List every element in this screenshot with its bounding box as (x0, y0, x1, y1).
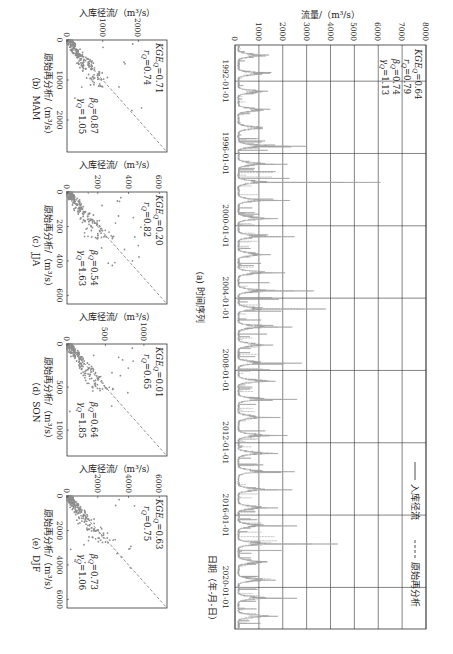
scatter-panel-d: 0500100005001000KGEQ=0.01rQ=0.65βQ=0.64γ… (31, 311, 167, 456)
scatter-point (132, 43, 134, 45)
y-tick-label: 0 (62, 184, 71, 189)
scatter-panels: 010002000010002000KGEQ=0.71rQ=0.74βQ=0.8… (31, 7, 167, 609)
scatter-point (103, 78, 105, 80)
scatter-point (72, 507, 74, 509)
scatter-point (101, 528, 103, 530)
scatter-caption: （d）SON (31, 377, 41, 422)
scatter-point (74, 207, 76, 209)
scatter-point (77, 350, 79, 352)
scatter-point (99, 225, 101, 227)
scatter-point (79, 367, 81, 369)
x-tick-label: 1000 (55, 70, 64, 89)
scatter-point (78, 512, 80, 514)
x-tick-label: 2000 (55, 110, 64, 129)
y-tick-label: 200 (93, 175, 102, 190)
scatter-point (77, 352, 79, 354)
legend-label-inflow: 入库径流 (410, 484, 421, 520)
scatter-point (97, 384, 99, 386)
scatter-point (87, 216, 89, 218)
scatter-point (72, 505, 74, 507)
scatter-point (120, 375, 122, 377)
scatter-point (74, 349, 76, 351)
scatter-point (88, 364, 90, 366)
scatter-point (96, 375, 98, 377)
scatter-point (94, 385, 96, 387)
scatter-point (99, 85, 101, 87)
stat-kge: KGEQ=0.71 (153, 42, 164, 93)
scatter-point (134, 236, 136, 238)
scatter-point (112, 539, 114, 541)
scatter-point (91, 530, 93, 532)
scatter-point (70, 192, 72, 194)
scatter-point (82, 211, 84, 213)
scatter-point (118, 356, 120, 358)
scatter-point (86, 77, 88, 79)
scatter-x-label: 原始再分析/（m³/s） (43, 53, 54, 139)
scatter-point (92, 390, 94, 392)
scatter-point (87, 362, 89, 364)
scatter-point (76, 57, 78, 59)
scatter-point (83, 64, 85, 66)
scatter-point (90, 64, 92, 66)
scatter-point (85, 228, 87, 230)
scatter-point (88, 213, 90, 215)
scatter-x-label: 原始再分析/（m³/s） (43, 205, 54, 291)
scatter-point (71, 502, 73, 504)
scatter-point (87, 373, 89, 375)
y-tick-label: 500 (100, 327, 109, 342)
scatter-point (97, 234, 99, 236)
scatter-panel-e: 02000400060000200040006000KGEQ=0.63rQ=0.… (31, 463, 167, 609)
scatter-point (102, 46, 104, 48)
scatter-point (72, 44, 74, 46)
scatter-caption: （e）DJF (31, 532, 41, 572)
scatter-point (75, 510, 77, 512)
scatter-y-label: 入库径流/（m³/s） (79, 311, 156, 322)
scatter-point (111, 372, 113, 374)
scatter-point (76, 360, 78, 362)
one-to-one-line (67, 496, 167, 608)
scatter-y-label: 入库径流/（m³/s） (79, 7, 156, 18)
scatter-point (81, 369, 83, 371)
scatter-point (72, 48, 74, 50)
x-tick-label: 1000 (55, 421, 64, 440)
stat-beta: βQ=0.64 (88, 401, 99, 438)
x-tick-label: 0 (55, 190, 64, 195)
scatter-point (118, 86, 120, 88)
scatter-point (74, 97, 76, 99)
scatter-point (79, 358, 81, 360)
stat-gamma: γQ=1.05 (76, 98, 87, 134)
scatter-point (90, 84, 92, 86)
scatter-point (115, 505, 117, 507)
scatter-point (105, 236, 107, 238)
scatter-point (70, 548, 72, 550)
x-tick-label: 0 (55, 494, 64, 499)
scatter-point (83, 68, 85, 70)
scatter-point (80, 515, 82, 517)
scatter-point (108, 386, 110, 388)
scatter-point (72, 202, 74, 204)
scatter-point (92, 370, 94, 372)
x-tick-label: 400 (55, 254, 64, 269)
panel-a-caption: (a) 时间序列 (195, 271, 206, 322)
scatter-point (73, 347, 75, 349)
scatter-point (74, 43, 76, 45)
scatter-point (80, 217, 82, 219)
scatter-point (67, 195, 69, 197)
x-tick-label: 4000 (55, 555, 64, 574)
scatter-point (72, 345, 74, 347)
scatter-point (93, 62, 95, 64)
y-tick-label: 2000 (93, 474, 102, 493)
scatter-point (68, 197, 70, 199)
scatter-point (84, 220, 86, 222)
scatter-point (132, 360, 134, 362)
scatter-point (82, 371, 84, 373)
scatter-y-label: 入库径流/（m³/s） (79, 463, 156, 474)
scatter-point (67, 500, 69, 502)
y-tick-label: 0 (62, 32, 71, 37)
time-series-panel: 0100020003000400050006000700080001992-01… (195, 9, 430, 629)
scatter-point (91, 519, 93, 521)
scatter-point (97, 541, 99, 543)
scatter-point (101, 237, 103, 239)
scatter-point (95, 538, 97, 540)
scatter-point (93, 523, 95, 525)
